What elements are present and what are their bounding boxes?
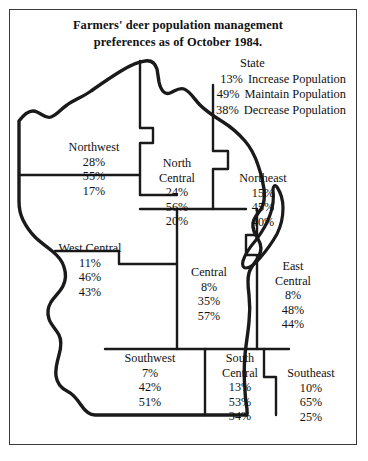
- region-name-northeast: Northeast: [222, 171, 304, 186]
- region-label-south-central: South Central 13% 53% 34%: [206, 351, 274, 424]
- region-name-west-central: West Central: [33, 241, 147, 256]
- region-maintain-southwest: 42%: [104, 380, 196, 395]
- region-decrease-southwest: 51%: [104, 395, 196, 410]
- region-maintain-south-central: 53%: [206, 395, 274, 410]
- region-name-south-central-line2: Central: [206, 366, 274, 381]
- region-decrease-central: 57%: [171, 309, 247, 324]
- region-decrease-south-central: 34%: [206, 409, 274, 424]
- region-label-north-central: North Central 24% 56% 20%: [141, 156, 213, 229]
- region-increase-south-central: 13%: [206, 380, 274, 395]
- region-increase-southwest: 7%: [104, 366, 196, 381]
- region-maintain-northwest: 55%: [46, 169, 142, 184]
- region-name-northwest: Northwest: [46, 140, 142, 155]
- region-label-southeast: Southeast 10% 65% 25%: [272, 366, 350, 424]
- region-decrease-west-central: 43%: [33, 285, 147, 300]
- region-maintain-central: 35%: [171, 294, 247, 309]
- region-decrease-east-central: 44%: [259, 317, 327, 332]
- region-name-east-central-line1: East: [259, 259, 327, 274]
- region-maintain-north-central: 56%: [141, 200, 213, 215]
- region-increase-central: 8%: [171, 280, 247, 295]
- region-label-east-central: East Central 8% 48% 44%: [259, 259, 327, 332]
- region-increase-east-central: 8%: [259, 288, 327, 303]
- region-name-southwest: Southwest: [104, 351, 196, 366]
- region-name-central: Central: [171, 265, 247, 280]
- region-maintain-northeast: 45%: [222, 200, 304, 215]
- region-name-north-central-line1: North: [141, 156, 213, 171]
- region-increase-southeast: 10%: [272, 381, 350, 396]
- region-decrease-northeast: 40%: [222, 215, 304, 230]
- region-maintain-east-central: 48%: [259, 303, 327, 318]
- region-label-northwest: Northwest 28% 55% 17%: [46, 140, 142, 198]
- region-maintain-west-central: 46%: [33, 270, 147, 285]
- region-increase-north-central: 24%: [141, 185, 213, 200]
- region-label-northeast: Northeast 15% 45% 40%: [222, 171, 304, 229]
- region-increase-west-central: 11%: [33, 256, 147, 271]
- region-decrease-southeast: 25%: [272, 410, 350, 425]
- region-name-east-central-line2: Central: [259, 274, 327, 289]
- region-label-west-central: West Central 11% 46% 43%: [33, 241, 147, 299]
- region-decrease-north-central: 20%: [141, 214, 213, 229]
- region-increase-northwest: 28%: [46, 155, 142, 170]
- region-decrease-northwest: 17%: [46, 184, 142, 199]
- region-label-southwest: Southwest 7% 42% 51%: [104, 351, 196, 409]
- region-name-north-central-line2: Central: [141, 171, 213, 186]
- region-name-south-central-line1: South: [206, 351, 274, 366]
- region-name-southeast: Southeast: [272, 366, 350, 381]
- region-label-central: Central 8% 35% 57%: [171, 265, 247, 323]
- region-maintain-southeast: 65%: [272, 395, 350, 410]
- deer-management-map-figure: Farmers' deer population management pref…: [0, 0, 368, 461]
- region-increase-northeast: 15%: [222, 186, 304, 201]
